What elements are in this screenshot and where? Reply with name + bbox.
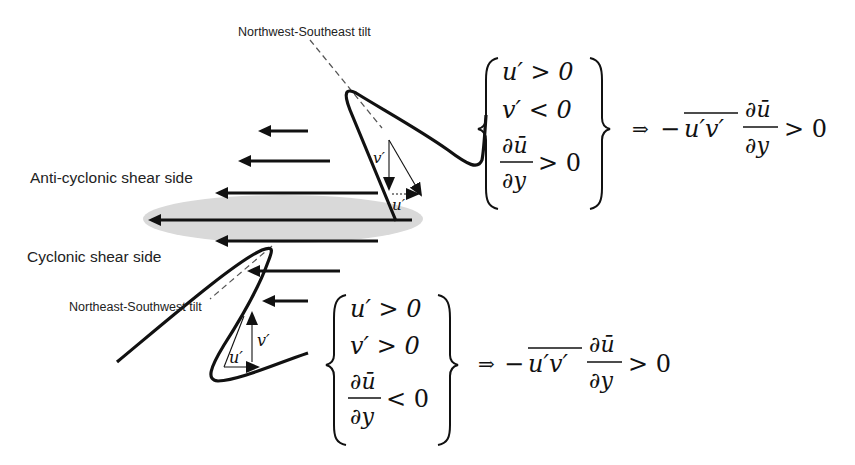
arrowhead-left-icon xyxy=(238,155,251,167)
upper-cond-dudy-rel: > 0 xyxy=(538,149,581,177)
lower-result-den: ∂y xyxy=(589,368,613,393)
lower-cond-u: u′ > 0 xyxy=(350,295,422,323)
upper-u-prime-label: u′ xyxy=(392,196,406,214)
upper-cond-dudy-num: ∂ū xyxy=(502,133,528,158)
upper-result-rel: > 0 xyxy=(784,115,827,143)
upper-cond-v: v′ < 0 xyxy=(502,96,572,124)
lower-left-brace xyxy=(326,295,346,445)
arrowhead-left-icon xyxy=(247,265,260,277)
lower-right-brace xyxy=(438,295,458,445)
upper-v-prime-label: v′ xyxy=(373,149,385,167)
upper-cond-u: u′ > 0 xyxy=(502,58,574,86)
arrowhead-left-icon xyxy=(258,125,271,137)
cyclonic-side-label: Cyclonic shear side xyxy=(27,248,161,265)
upper-result-flux: u′v′ xyxy=(684,115,724,143)
ne-sw-tilt-label: Northeast-Southwest tilt xyxy=(69,300,202,314)
lower-implies: ⇒ xyxy=(478,352,495,376)
anticyclonic-side-label: Anti-cyclonic shear side xyxy=(30,169,193,186)
lower-condition-block: u′ > 0 v′ > 0 ∂ū ∂y < 0 ⇒ − u′v′ ∂ū ∂y >… xyxy=(326,295,671,445)
lower-u-prime-label: u′ xyxy=(229,348,243,367)
lower-cond-dudy-num: ∂ū xyxy=(350,369,376,394)
lower-cond-dudy-rel: < 0 xyxy=(386,385,429,413)
upper-result-num: ∂ū xyxy=(745,97,771,122)
upper-left-brace xyxy=(478,58,498,209)
arrowhead-left-icon xyxy=(262,295,275,307)
lower-result-rel: > 0 xyxy=(628,350,671,378)
nw-se-tilt-axis xyxy=(310,40,382,128)
shear-tilt-diagram: v′ u′ v′ u′ Northwest-Southeast tilt Ant… xyxy=(0,0,855,465)
lower-cond-v: v′ > 0 xyxy=(350,332,420,360)
upper-condition-block: u′ > 0 v′ < 0 ∂ū ∂y > 0 ⇒ − u′v′ ∂ū ∂y >… xyxy=(478,58,827,209)
upper-result-den: ∂y xyxy=(745,133,769,158)
arrowhead-left-icon xyxy=(215,187,228,199)
lower-result-sign: − xyxy=(504,350,524,378)
lower-v-prime-label: v′ xyxy=(257,331,270,350)
nw-se-tilt-label: Northwest-Southeast tilt xyxy=(238,25,371,39)
upper-implies: ⇒ xyxy=(632,117,649,141)
upper-right-brace xyxy=(590,58,610,209)
upper-result-sign: − xyxy=(660,115,680,143)
lower-result-num: ∂ū xyxy=(589,332,615,357)
upper-cond-dudy-den: ∂y xyxy=(502,168,526,193)
lower-result-flux: u′v′ xyxy=(528,350,568,378)
upper-resultant-vector xyxy=(389,140,421,195)
lower-cond-dudy-den: ∂y xyxy=(350,404,374,429)
lower-eddy-trough-line xyxy=(117,248,308,381)
